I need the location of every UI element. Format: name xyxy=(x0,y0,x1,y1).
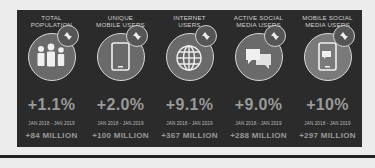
period-label: JAN 2018 - JAN 2019 xyxy=(224,121,293,126)
change-absolute: +297 MILLION xyxy=(293,131,362,140)
trend-arrows-icon xyxy=(57,25,79,47)
stat-title-line2: MEDIA USERS xyxy=(293,21,362,28)
change-absolute: +367 MILLION xyxy=(155,131,224,140)
change-percent: +9.1% xyxy=(155,96,224,114)
change-absolute: +288 MILLION xyxy=(224,131,293,140)
stat-title: ACTIVE SOCIAL MEDIA USERS xyxy=(224,14,293,28)
trend-arrows-icon xyxy=(333,25,355,47)
stat-title-line2: MEDIA USERS xyxy=(224,21,293,28)
growth-stats-panel: TOTAL POPULATION +1.1% JAN 2018 - JAN 20… xyxy=(17,10,362,147)
stat-title-line1: TOTAL xyxy=(17,14,86,21)
stat-unique-mobile-users: UNIQUE MOBILE USERS +2.0% JAN 2018 - JAN… xyxy=(86,10,155,147)
stat-title: INTERNET USERS xyxy=(155,14,224,28)
trend-arrows-icon xyxy=(195,25,217,47)
period-label: JAN 2018 - JAN 2019 xyxy=(17,121,86,126)
stat-internet-users: INTERNET USERS +9.1% JAN 2018 - JAN 2019… xyxy=(155,10,224,147)
change-percent: +10% xyxy=(293,96,362,114)
change-percent: +1.1% xyxy=(17,96,86,114)
stat-title-line1: ACTIVE SOCIAL xyxy=(224,14,293,21)
stat-title: UNIQUE MOBILE USERS xyxy=(86,14,155,28)
trend-arrows-icon xyxy=(126,25,148,47)
change-percent: +2.0% xyxy=(86,96,155,114)
period-label: JAN 2018 - JAN 2019 xyxy=(86,121,155,126)
change-percent: +9.0% xyxy=(224,96,293,114)
stat-title: TOTAL POPULATION xyxy=(17,14,86,28)
stat-active-social-media-users: ACTIVE SOCIAL MEDIA USERS +9.0% JAN 2018… xyxy=(224,10,293,147)
stat-total-population: TOTAL POPULATION +1.1% JAN 2018 - JAN 20… xyxy=(17,10,86,147)
stat-title-line1: UNIQUE xyxy=(86,14,155,21)
stat-mobile-social-media-users: MOBILE SOCIAL MEDIA USERS +10% JAN 2018 … xyxy=(293,10,362,147)
period-label: JAN 2018 - JAN 2019 xyxy=(293,121,362,126)
stat-title-line1: INTERNET xyxy=(155,14,224,21)
stat-title: MOBILE SOCIAL MEDIA USERS xyxy=(293,14,362,28)
stat-title-line2: MOBILE USERS xyxy=(86,21,155,28)
trend-arrows-icon xyxy=(264,25,286,47)
period-label: JAN 2018 - JAN 2019 xyxy=(155,121,224,126)
change-absolute: +84 MILLION xyxy=(17,131,86,140)
stat-title-line2: POPULATION xyxy=(17,21,86,28)
change-absolute: +100 MILLION xyxy=(86,131,155,140)
stat-title-line1: MOBILE SOCIAL xyxy=(293,14,362,21)
divider-line xyxy=(0,155,375,158)
stat-title-line2: USERS xyxy=(155,21,224,28)
